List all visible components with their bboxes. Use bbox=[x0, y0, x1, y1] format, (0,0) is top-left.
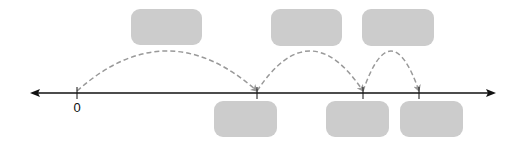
jump-arcs bbox=[77, 51, 419, 91]
number-line-axis bbox=[30, 89, 496, 97]
bottom-answer-box-0[interactable] bbox=[214, 101, 277, 137]
jump-arc-1 bbox=[257, 51, 363, 91]
jump-arc-2 bbox=[363, 51, 419, 91]
top-answer-box-2[interactable] bbox=[362, 9, 434, 46]
bottom-answer-box-1[interactable] bbox=[326, 101, 389, 137]
origin-tick-label: 0 bbox=[73, 101, 80, 114]
top-answer-box-0[interactable] bbox=[131, 9, 202, 45]
top-answer-box-1[interactable] bbox=[271, 9, 342, 46]
bottom-answer-box-2[interactable] bbox=[400, 101, 463, 137]
jump-arc-0 bbox=[77, 51, 257, 91]
number-line-diagram: 0 bbox=[0, 0, 519, 144]
